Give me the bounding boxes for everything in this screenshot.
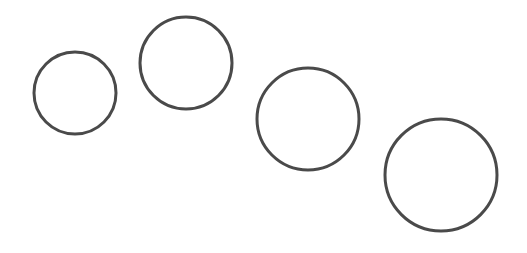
circle-4	[385, 119, 497, 231]
diagram-canvas	[0, 0, 527, 253]
circles-drawing	[0, 0, 527, 253]
circle-2	[140, 17, 232, 109]
circle-3	[257, 68, 359, 170]
circle-1	[34, 52, 116, 134]
